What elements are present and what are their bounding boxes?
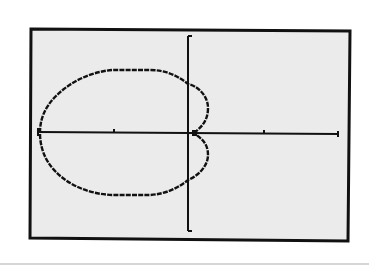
screen-frame (30, 29, 350, 241)
bottom-rule (0, 263, 369, 265)
cusp-dot (192, 130, 197, 136)
page: Polar graph of a cardioid on a calculato… (0, 0, 369, 268)
calculator-graph-screen (0, 0, 369, 268)
